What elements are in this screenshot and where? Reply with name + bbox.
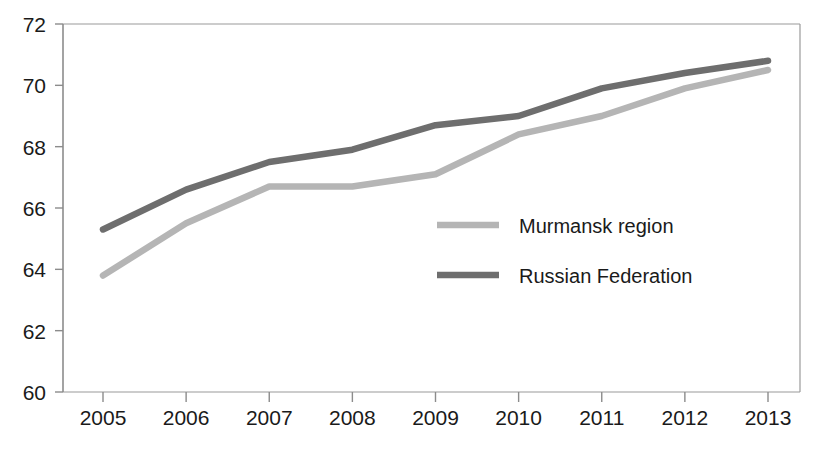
x-tick-label: 2007 <box>246 406 293 429</box>
x-tick-label: 2008 <box>329 406 376 429</box>
chart-canvas: 60626466687072 2005200620072008200920102… <box>0 0 816 452</box>
data-series-layer <box>103 61 768 276</box>
legend-label: Murmansk region <box>519 215 674 237</box>
y-tick-label: 66 <box>23 197 46 220</box>
x-axis-tick-labels: 200520062007200820092010201120122013 <box>80 406 792 429</box>
x-tick-label: 2005 <box>80 406 127 429</box>
chart-legend: Murmansk regionRussian Federation <box>437 215 692 287</box>
x-tick-label: 2009 <box>412 406 459 429</box>
y-tick-label: 72 <box>23 13 46 36</box>
x-tick-label: 2013 <box>745 406 792 429</box>
x-tick-label: 2006 <box>163 406 210 429</box>
x-tick-label: 2010 <box>495 406 542 429</box>
y-tick-label: 64 <box>23 258 47 281</box>
y-axis-ticks <box>55 24 63 392</box>
y-tick-label: 70 <box>23 74 46 97</box>
x-axis-ticks <box>103 392 768 402</box>
x-tick-label: 2011 <box>579 406 624 429</box>
series-line <box>103 70 768 275</box>
plot-frame <box>63 24 800 392</box>
y-tick-label: 68 <box>23 136 46 159</box>
y-tick-label: 60 <box>23 381 46 404</box>
series-line <box>103 61 768 230</box>
y-axis-tick-labels: 60626466687072 <box>23 13 47 404</box>
y-tick-label: 62 <box>23 320 46 343</box>
x-tick-label: 2012 <box>662 406 709 429</box>
line-chart: 60626466687072 2005200620072008200920102… <box>0 0 816 452</box>
legend-label: Russian Federation <box>519 265 692 287</box>
